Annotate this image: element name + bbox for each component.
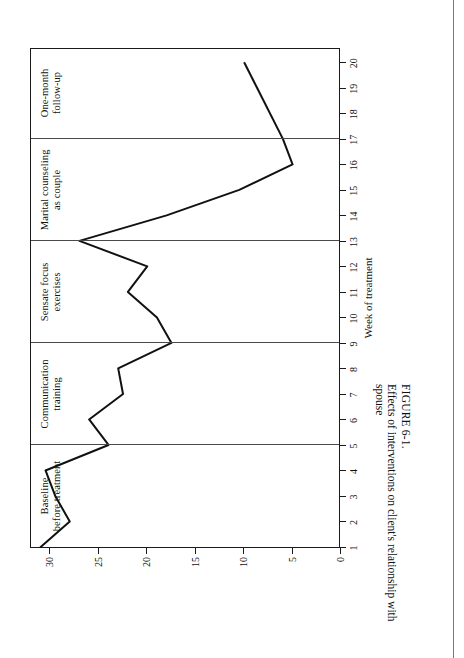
x-axis-tick [340,113,346,114]
phase-label-line: Marital counseling [39,149,50,230]
x-axis-tick-label: 10 [348,313,359,323]
x-axis-tick [340,88,346,89]
y-axis-tick-label: 25 [92,557,103,567]
phase-divider [31,240,339,241]
y-axis-tick-label: 30 [44,557,55,567]
x-axis-tick-label: 16 [348,160,359,170]
y-axis-tick [195,548,196,554]
caption-text: Effects of interventions on client's rel… [374,384,398,636]
x-axis-tick-label: 14 [348,211,359,221]
x-axis-tick [340,470,346,471]
x-axis-tick-label: 20 [348,58,359,68]
phase-label-line: Communication [39,359,50,428]
x-axis-tick-label: 12 [348,262,359,272]
y-axis-tick [49,548,50,554]
data-line-series [31,47,341,547]
x-axis-tick [340,496,346,497]
phase-label-4: Marital counselingas couple [39,139,63,241]
y-axis-tick-label: 10 [238,557,249,567]
y-axis-tick [243,548,244,554]
y-axis-tick [292,548,293,554]
x-axis-tick [340,139,346,140]
x-axis-tick [340,522,346,523]
x-axis-tick [340,547,346,548]
phase-label-line: before treatment [51,461,62,532]
phase-divider [31,342,339,343]
x-axis-tick [340,317,346,318]
phase-label-3: Sensate focusexercises [39,241,63,343]
y-axis-tick-label: 5 [286,557,297,562]
x-axis-tick [340,190,346,191]
x-axis-tick-label: 2 [348,520,359,525]
phase-label-line: One-month [39,69,50,118]
x-axis-tick-label: 19 [348,84,359,94]
y-axis: Number of arguments or disagreements 051… [30,548,340,580]
x-axis-tick [340,394,346,395]
phase-label-1: Baselinebefore treatment [39,445,63,547]
plot-area: Baselinebefore treatmentCommunicationtra… [30,48,340,548]
phase-label-line: exercises [51,272,62,311]
phase-label-2: Communicationtraining [39,343,63,445]
phase-label-5: One-monthfollow-up [39,47,63,139]
x-axis-title: Week of treatment [362,48,374,548]
page-margin-rule [453,0,454,658]
x-axis-tick-label: 3 [348,494,359,499]
x-axis-tick [340,292,346,293]
x-axis-tick-label: 13 [348,237,359,247]
x-axis-tick [340,343,346,344]
x-axis-tick-label: 5 [348,443,359,448]
phase-label-line: follow-up [51,72,62,114]
phase-divider [31,138,339,139]
x-axis-tick-label: 8 [348,367,359,372]
x-axis-tick-label: 6 [348,418,359,423]
x-axis-tick-label: 1 [348,546,359,551]
x-axis-tick [340,419,346,420]
y-axis-tick [146,548,147,554]
x-axis-tick [340,445,346,446]
followup-connector-line [244,62,283,139]
phase-label-line: Sensate focus [39,263,50,322]
x-axis-tick-label: 7 [348,392,359,397]
x-axis-tick-label: 15 [348,186,359,196]
figure-caption: FIGURE 6-1. Effects of interventions on … [374,384,412,636]
phase-label-line: Baseline [39,478,50,515]
x-axis-tick [340,368,346,369]
y-axis-tick-label: 0 [335,557,346,562]
figure-rotated-container: Number of arguments or disagreements 051… [0,0,400,658]
phase-label-line: training [51,377,62,410]
x-axis-tick [340,215,346,216]
x-axis-tick-label: 17 [348,135,359,145]
phase-label-line: as couple [51,170,62,210]
x-axis-tick-label: 18 [348,109,359,119]
y-axis-tick-label: 20 [141,557,152,567]
phase-divider [31,444,339,445]
x-axis-tick-label: 4 [348,469,359,474]
y-axis-tick-label: 15 [189,557,200,567]
x-axis-tick-label: 9 [348,341,359,346]
y-axis-tick [98,548,99,554]
y-axis-tick [340,548,341,554]
x-axis-tick-label: 11 [348,288,359,298]
x-axis-tick [340,62,346,63]
x-axis-tick [340,241,346,242]
x-axis-tick [340,164,346,165]
caption-number: FIGURE 6-1. [400,384,412,636]
x-axis-tick [340,266,346,267]
